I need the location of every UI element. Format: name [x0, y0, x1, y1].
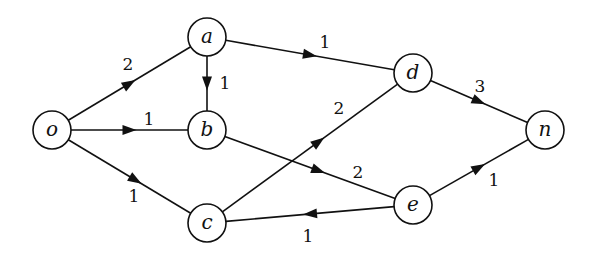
- node-label: e: [407, 192, 419, 216]
- edge-b-e: 2: [225, 137, 395, 199]
- edge-e-c: 1: [226, 207, 394, 246]
- edge-line: [225, 137, 395, 199]
- arrowhead-icon: [310, 137, 324, 149]
- arrowhead-icon: [202, 77, 212, 91]
- node-e: e: [394, 186, 432, 224]
- edge-weight-label: 1: [220, 73, 231, 93]
- edge-c-d: 2: [222, 84, 397, 212]
- edge-a-d: 1: [226, 32, 395, 70]
- node-b: b: [188, 111, 226, 149]
- edge-o-a: 2: [68, 47, 190, 120]
- node-c: c: [188, 204, 226, 242]
- edge-weight-label: 1: [320, 32, 331, 52]
- edge-weight-label: 1: [303, 226, 314, 246]
- node-a: a: [188, 18, 226, 56]
- node-d: d: [394, 54, 432, 92]
- edge-o-b: 1: [71, 109, 188, 135]
- node-o: o: [33, 111, 71, 149]
- edge-weight-label: 2: [123, 54, 134, 74]
- node-label: o: [46, 117, 58, 141]
- edge-line: [222, 84, 397, 212]
- arrowhead-icon: [303, 208, 317, 218]
- arrowhead-icon: [121, 80, 136, 91]
- edge-weight-label: 3: [475, 76, 486, 96]
- arrowhead-icon: [123, 125, 137, 135]
- graph-diagram: 2111122131 oabcden: [0, 0, 590, 258]
- edge-a-b: 1: [202, 56, 230, 111]
- node-n: n: [526, 111, 564, 149]
- edge-weight-label: 1: [144, 109, 155, 129]
- node-label: d: [407, 60, 420, 84]
- edge-weight-label: 2: [353, 162, 364, 182]
- arrowhead-icon: [310, 164, 325, 173]
- edge-o-c: 1: [68, 140, 190, 213]
- edges-layer: 2111122131: [68, 32, 528, 246]
- node-label: n: [539, 117, 552, 141]
- arrowhead-icon: [470, 164, 485, 175]
- node-label: a: [201, 24, 213, 48]
- edge-d-n: 3: [430, 76, 527, 122]
- arrowhead-icon: [302, 49, 317, 59]
- edge-weight-label: 1: [489, 170, 500, 190]
- node-label: b: [201, 117, 214, 141]
- node-label: c: [201, 210, 212, 234]
- edge-weight-label: 2: [334, 98, 345, 118]
- arrowhead-icon: [127, 172, 142, 183]
- edge-weight-label: 1: [129, 186, 140, 206]
- edge-e-n: 1: [430, 139, 529, 195]
